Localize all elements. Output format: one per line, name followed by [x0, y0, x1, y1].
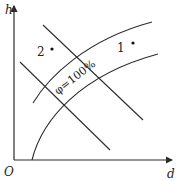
point-1-marker: [131, 41, 134, 44]
origin-label: O: [4, 165, 14, 179]
curve-label: φ=100%: [52, 57, 98, 97]
x-axis-label: d: [167, 167, 175, 181]
hd-diagram: h d O 2 1 φ=100%: [0, 0, 183, 181]
y-axis-label: h: [5, 3, 13, 17]
point-1-label: 1: [117, 41, 125, 55]
point-2-marker: [50, 47, 53, 50]
point-2-label: 2: [37, 45, 45, 59]
saturation-curve: [32, 54, 158, 160]
